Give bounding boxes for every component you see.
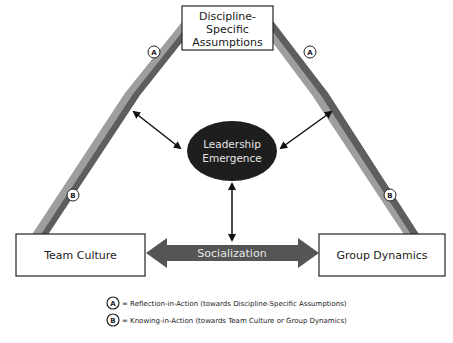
svg-text:B: B <box>110 317 115 325</box>
left-double-arrow <box>134 112 180 148</box>
legend-text-a: = Reflection-in-Action (towards Discipli… <box>122 300 347 308</box>
legend: A = Reflection-in-Action (towards Discip… <box>107 297 347 326</box>
discipline-specific-assumptions-box: Discipline- Specific Assumptions <box>182 6 273 50</box>
ellipse-line-2: Emergence <box>202 152 261 164</box>
marker-a-right: A <box>304 46 316 58</box>
legend-text-b: = Knowing-in-Action (towards Team Cultur… <box>122 317 347 325</box>
legend-item-a: A = Reflection-in-Action (towards Discip… <box>107 297 347 309</box>
socialization-label: Socialization <box>197 247 266 260</box>
marker-a-left: A <box>148 46 160 58</box>
svg-text:A: A <box>110 300 116 308</box>
leadership-emergence-ellipse: Leadership Emergence <box>187 121 277 181</box>
svg-text:B: B <box>70 192 75 200</box>
svg-text:B: B <box>387 192 392 200</box>
svg-text:A: A <box>151 49 157 57</box>
leadership-emergence-diagram: Discipline- Specific Assumptions A A B B… <box>0 0 453 343</box>
group-dynamics-box: Group Dynamics <box>319 234 445 276</box>
team-culture-box: Team Culture <box>16 234 145 276</box>
top-box-line-3: Assumptions <box>192 36 263 49</box>
marker-b-left: B <box>67 189 79 201</box>
svg-text:A: A <box>307 49 313 57</box>
top-box-line-2: Specific <box>206 23 249 36</box>
group-dynamics-label: Group Dynamics <box>336 249 427 262</box>
right-double-arrow <box>281 112 331 148</box>
ellipse-line-1: Leadership <box>203 138 261 150</box>
marker-b-right: B <box>384 189 396 201</box>
socialization-arrow: Socialization <box>146 238 319 268</box>
top-box-line-1: Discipline- <box>199 10 256 23</box>
legend-item-b: B = Knowing-in-Action (towards Team Cult… <box>107 314 347 326</box>
team-culture-label: Team Culture <box>43 249 117 262</box>
